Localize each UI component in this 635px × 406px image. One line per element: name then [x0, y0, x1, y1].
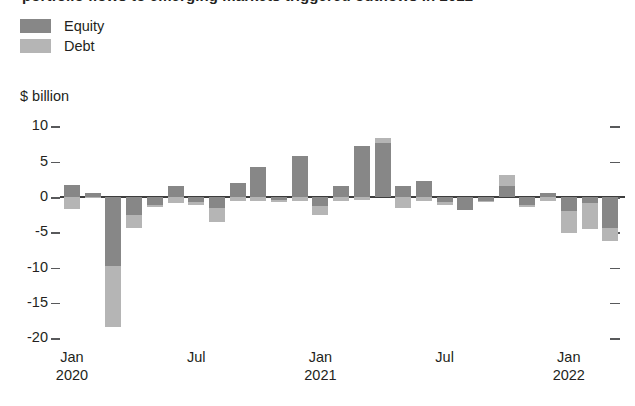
y-axis-tick-mark — [51, 303, 60, 305]
x-axis-tick-label: Jan2020 — [32, 348, 112, 384]
bar-segment-debt — [395, 197, 411, 208]
bar-segment-equity — [292, 156, 308, 197]
bar-segment-equity — [250, 167, 266, 197]
y-axis-tick-mark — [51, 232, 60, 234]
bar-segment-debt — [416, 197, 432, 201]
bar-segment-debt — [126, 215, 142, 228]
y-axis-tick-label: -10 — [2, 259, 48, 275]
bar-segment-debt — [540, 197, 556, 201]
bar-segment-debt — [292, 197, 308, 201]
bar-segment-debt — [85, 197, 101, 198]
bar-segment-debt — [602, 228, 618, 241]
y-axis-tick-mark-right — [610, 338, 620, 340]
y-axis-tick-label: 5 — [2, 153, 48, 169]
bar-segment-equity — [64, 185, 80, 197]
bar-segment-equity — [499, 186, 515, 197]
x-axis-tick-label: Jan2021 — [280, 348, 360, 384]
bar-segment-equity — [312, 197, 328, 206]
y-axis-tick-label: -20 — [2, 329, 48, 345]
bar-segment-equity — [147, 197, 163, 205]
bar-segment-equity — [457, 197, 473, 210]
bar-segment-debt — [105, 266, 121, 327]
bar-segment-debt — [582, 203, 598, 228]
bar-segment-equity — [561, 197, 577, 211]
x-axis-tick-label: Jul — [156, 348, 236, 366]
bar-segment-equity — [168, 186, 184, 197]
bar-segment-debt — [437, 202, 453, 205]
bar-segment-debt — [499, 175, 515, 186]
bar-segment-debt — [312, 206, 328, 215]
y-axis-tick-label: 10 — [2, 117, 48, 133]
x-axis-tick-label: Jul — [405, 348, 485, 366]
bar-segment-debt — [168, 197, 184, 203]
bar-segment-debt — [375, 138, 391, 142]
y-axis-tick-mark-right — [610, 162, 620, 164]
chart-plot-area: 1050-5-10-15-20Jan2020JulJan2021JulJan20… — [0, 0, 635, 406]
bar-segment-debt — [250, 197, 266, 201]
bar-segment-equity — [126, 197, 142, 215]
bar-segment-debt — [561, 211, 577, 233]
y-axis-tick-label: -5 — [2, 223, 48, 239]
x-axis-tick-label: Jan2022 — [529, 348, 609, 384]
bar-segment-equity — [354, 146, 370, 197]
y-axis-tick-mark-right — [610, 268, 620, 270]
y-axis-tick-label: 0 — [2, 188, 48, 204]
bar-segment-equity — [333, 186, 349, 197]
bar-segment-debt — [478, 201, 494, 202]
y-axis-tick-label: -15 — [2, 294, 48, 310]
bar-segment-equity — [519, 197, 535, 205]
bar-segment-debt — [230, 197, 246, 201]
bar-segment-debt — [354, 197, 370, 200]
bar-segment-debt — [333, 197, 349, 201]
bar-segment-equity — [105, 197, 121, 266]
bar-segment-equity — [375, 143, 391, 197]
y-axis-tick-mark-right — [610, 126, 620, 128]
y-axis-tick-mark-right — [610, 303, 620, 305]
bar-segment-debt — [188, 202, 204, 206]
y-axis-tick-mark — [51, 268, 60, 270]
bar-segment-debt — [519, 205, 535, 207]
bar-segment-debt — [271, 200, 287, 202]
bar-segment-equity — [602, 197, 618, 228]
bar-segment-equity — [209, 197, 225, 208]
y-axis-tick-mark — [51, 162, 60, 164]
bar-segment-debt — [64, 197, 80, 209]
y-axis-tick-mark — [51, 197, 60, 199]
bar-segment-debt — [209, 208, 225, 222]
y-axis-tick-mark — [51, 126, 60, 128]
bar-segment-debt — [147, 205, 163, 207]
y-axis-tick-mark — [51, 338, 60, 340]
bar-segment-equity — [416, 181, 432, 197]
bar-segment-equity — [395, 186, 411, 197]
bar-segment-equity — [230, 183, 246, 197]
